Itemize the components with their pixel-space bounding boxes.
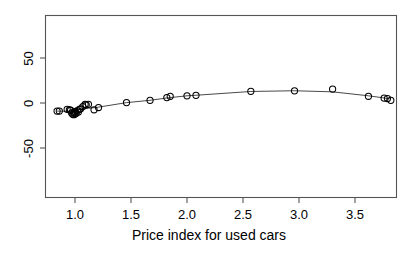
x-tick-label: 3.5: [346, 208, 364, 221]
x-tick-label: 1.5: [122, 208, 140, 221]
x-tick-label: 3.0: [290, 208, 308, 221]
x-axis-title: Price index for used cars: [0, 228, 418, 242]
x-tick-label: 2.5: [234, 208, 252, 221]
y-tick-label: 50: [22, 51, 35, 65]
scatter-plot-figure: 1.01.52.02.53.03.5 500-50 Price index fo…: [0, 0, 418, 261]
y-tick-label: 0: [22, 99, 35, 106]
fitted-curve-line: [57, 91, 391, 112]
y-axis-ticks: [40, 58, 46, 148]
plot-canvas: [0, 0, 418, 261]
x-tick-label: 1.0: [66, 208, 84, 221]
plot-frame: [46, 16, 397, 198]
x-tick-label: 2.0: [178, 208, 196, 221]
x-axis-ticks: [75, 198, 355, 204]
data-point-markers: [54, 86, 394, 118]
y-tick-label: -50: [21, 139, 34, 158]
